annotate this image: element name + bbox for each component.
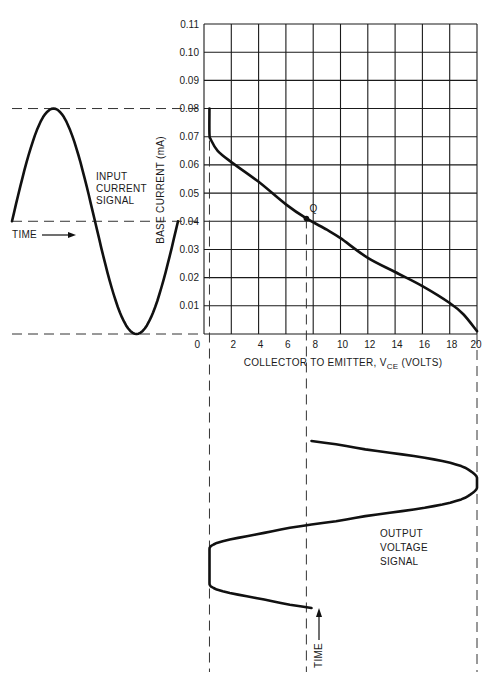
q-point-marker [304,216,310,222]
x-tick-label: 20 [470,339,482,350]
y-tick-label: 0.03 [180,244,200,255]
output-signal-label-1: OUTPUT [380,528,423,539]
y-axis-label: BASE CURRENT (mA) [155,136,166,244]
output-time-label: TIME [313,643,324,668]
x-tick-label: 14 [392,339,404,350]
output-signal-label-2: VOLTAGE [380,542,428,553]
y-tick-label: 0.02 [180,272,200,283]
y-tick-label: 0.07 [180,131,200,142]
input-time-arrow-icon [42,232,76,238]
x-tick-label: 2 [231,339,237,350]
transistor-load-line-diagram: 0.010.020.030.040.050.060.070.080.090.10… [0,0,493,680]
input-signal-label-3: SIGNAL [96,195,135,206]
output-time-arrow-icon [316,608,322,640]
output-signal-label-3: SIGNAL [380,556,419,567]
x-tick-label: 6 [285,339,291,350]
x-tick-label: 10 [337,339,349,350]
y-tick-label: 0.11 [180,19,199,30]
y-tick-label: 0.01 [180,300,200,311]
input-signal-label-1: INPUT [96,171,128,182]
x-axis-ticks: 02468101214161820 [194,339,482,350]
y-tick-label: 0.06 [180,159,200,170]
y-tick-label: 0.10 [180,47,200,58]
x-tick-label: 12 [364,339,376,350]
x-axis-label: COLLECTOR TO EMITTER, VCE (VOLTS) [244,357,443,371]
input-time-label: TIME [12,229,37,240]
chart-grid [204,24,477,334]
x-tick-label: 8 [312,339,318,350]
x-tick-label: 4 [258,339,264,350]
load-line-curve [209,109,477,332]
x-tick-label: 18 [446,339,458,350]
y-axis-ticks: 0.010.020.030.040.050.060.070.080.090.10… [180,19,200,312]
y-tick-label: 0.09 [180,75,200,86]
output-voltage-waveform [210,441,478,608]
x-tick-label: 0 [194,339,200,350]
y-tick-label: 0.05 [180,188,200,199]
x-tick-label: 16 [419,339,431,350]
input-signal-label-2: CURRENT [96,183,147,194]
q-point-label: Q [309,203,317,214]
